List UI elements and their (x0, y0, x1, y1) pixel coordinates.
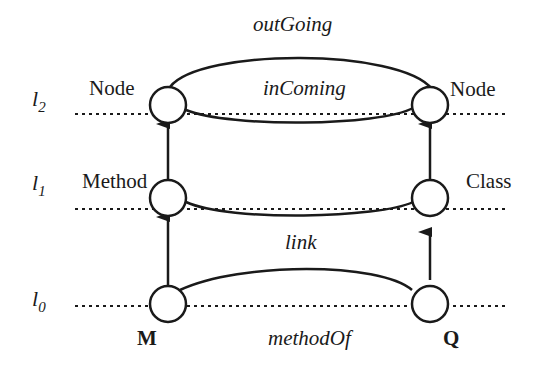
edge-label-incoming: inComing (263, 76, 346, 100)
node-left-l0 (150, 286, 186, 322)
level-label-l1: l1 (32, 170, 46, 199)
edge-label-outgoing: outGoing (253, 12, 332, 36)
edge-label-methodof: methodOf (268, 326, 354, 350)
node-left-l1 (150, 180, 186, 216)
node-left-l2 (150, 87, 186, 123)
level-label-l0: l0 (32, 286, 46, 315)
node-right-l0 (412, 286, 448, 322)
node-right-l2 (412, 87, 448, 123)
level-label-l2: l2 (32, 86, 46, 115)
node-label-right-l1: Class (466, 169, 512, 193)
node-label-left-l0: M (137, 326, 157, 350)
edge-methodof (180, 269, 412, 290)
node-right-l1 (412, 180, 448, 216)
edge-incoming (186, 108, 413, 123)
node-label-right-l2: Node (450, 77, 496, 101)
node-label-left-l1: Method (82, 169, 148, 193)
edge-label-link: link (285, 230, 317, 254)
node-label-right-l0: Q (443, 326, 459, 350)
level-diagram: l2 l1 l0 Node Node Met (0, 0, 540, 372)
node-label-left-l2: Node (89, 76, 135, 100)
